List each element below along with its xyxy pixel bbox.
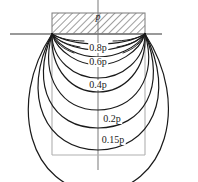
isobar-label-0.6p: 0.6p <box>88 57 108 67</box>
isobar-label-0.8p: 0.8p <box>88 43 108 53</box>
isobar-label-0.15p: 0.15p <box>101 135 126 145</box>
stress-bulb-diagram <box>0 0 198 182</box>
isobar-label-0.2p: 0.2p <box>102 114 122 124</box>
stress-bulb-figure: p 0.8p 0.6p 0.4p 0.2p 0.15p <box>0 0 198 182</box>
isobar-label-0.4p: 0.4p <box>88 80 108 90</box>
load-label-p: p <box>96 12 101 22</box>
